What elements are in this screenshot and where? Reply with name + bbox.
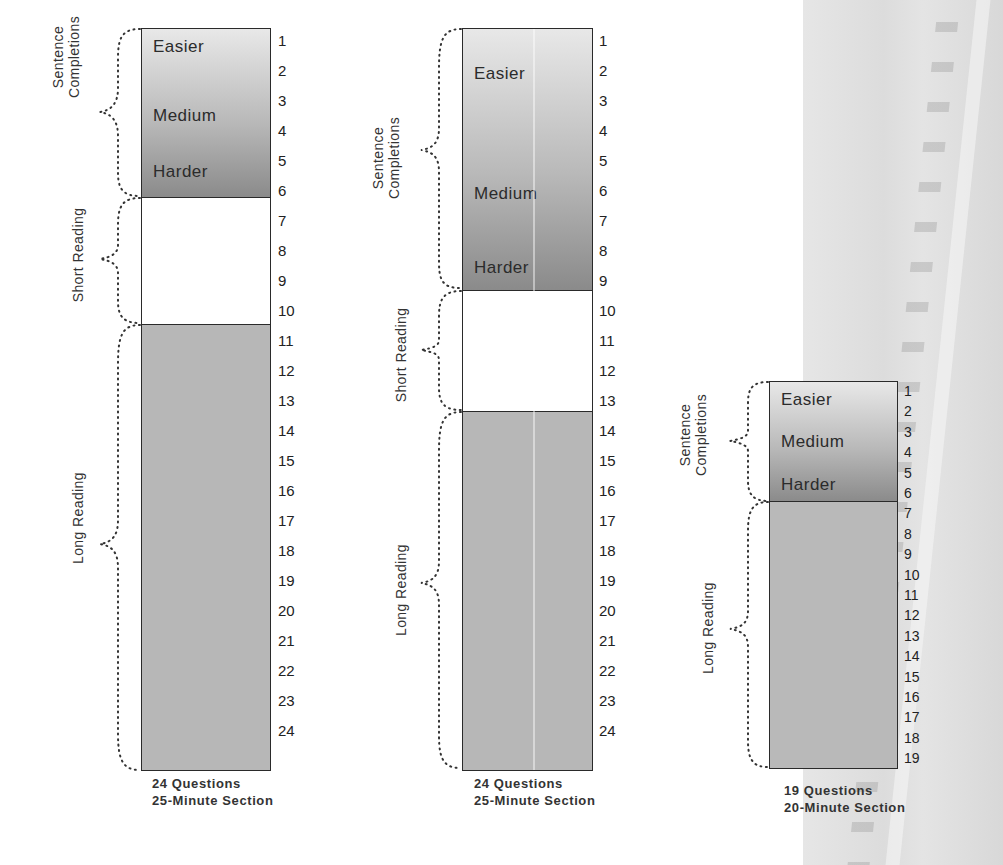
question-number: 2 <box>278 63 286 78</box>
question-number: 13 <box>278 393 295 408</box>
question-number: 12 <box>599 363 616 378</box>
question-number: 6 <box>278 183 286 198</box>
question-number: 16 <box>278 483 295 498</box>
question-number: 15 <box>599 453 616 468</box>
question-number: 24 <box>278 723 295 738</box>
brace-long-reading <box>90 324 142 772</box>
question-number: 1 <box>278 33 286 48</box>
question-number: 7 <box>904 506 912 520</box>
sentence-completions-block: Easier Medium Harder <box>142 29 270 198</box>
question-number: 17 <box>904 710 920 724</box>
question-number: 2 <box>599 63 607 78</box>
label-sentence-completions: Sentence Completions <box>370 93 402 223</box>
question-number: 17 <box>599 513 616 528</box>
question-number: 5 <box>904 466 912 480</box>
question-number: 7 <box>599 213 607 228</box>
question-number: 9 <box>904 547 912 561</box>
question-number: 16 <box>599 483 616 498</box>
question-number: 14 <box>904 649 920 663</box>
question-number: 11 <box>599 333 615 348</box>
sentence-completions-block: Easier Medium Harder <box>770 382 897 502</box>
section-caption: 24 Questions 25-Minute Section <box>152 775 273 809</box>
difficulty-harder: Harder <box>153 162 208 182</box>
brace-sentence-completions <box>90 28 142 198</box>
question-number: 8 <box>904 527 912 541</box>
question-number: 9 <box>278 273 286 288</box>
brace-long-reading <box>411 411 463 771</box>
question-number: 1 <box>904 384 912 398</box>
question-number: 4 <box>599 123 607 138</box>
question-number: 7 <box>278 213 286 228</box>
question-number: 20 <box>278 603 295 618</box>
question-number: 2 <box>904 404 912 418</box>
question-number: 6 <box>904 486 912 500</box>
label-long-reading: Long Reading <box>70 428 86 608</box>
question-number: 24 <box>599 723 616 738</box>
short-reading-block <box>463 290 592 412</box>
question-number: 12 <box>904 608 920 622</box>
question-number: 11 <box>278 333 294 348</box>
question-number: 5 <box>278 153 286 168</box>
brace-short-reading <box>90 197 142 325</box>
question-number: 3 <box>599 93 607 108</box>
question-number: 18 <box>599 543 616 558</box>
label-sentence-completions: Sentence Completions <box>677 375 709 495</box>
brace-sentence-completions <box>411 28 463 291</box>
difficulty-easier: Easier <box>781 390 832 410</box>
label-short-reading: Short Reading <box>393 290 409 420</box>
label-long-reading: Long Reading <box>700 568 716 688</box>
question-number: 18 <box>904 731 920 745</box>
short-reading-block <box>142 197 270 325</box>
question-number: 4 <box>278 123 286 138</box>
question-number: 17 <box>278 513 295 528</box>
question-number: 3 <box>904 425 912 439</box>
difficulty-medium: Medium <box>781 432 844 452</box>
question-number: 5 <box>599 153 607 168</box>
section-caption: 24 Questions 25-Minute Section <box>474 775 595 809</box>
question-number: 20 <box>599 603 616 618</box>
brace-short-reading <box>411 290 463 412</box>
question-number: 9 <box>599 273 607 288</box>
question-number: 14 <box>599 423 616 438</box>
question-number: 16 <box>904 690 920 704</box>
question-bar: Easier Medium Harder <box>769 381 898 769</box>
difficulty-easier: Easier <box>153 37 204 57</box>
question-bar: Easier Medium Harder <box>141 28 271 771</box>
question-number: 10 <box>599 303 616 318</box>
question-number: 18 <box>278 543 295 558</box>
brace-long-reading <box>718 501 770 770</box>
question-number: 3 <box>278 93 286 108</box>
label-sentence-completions: Sentence Completions <box>50 2 82 112</box>
section-caption: 19 Questions 20-Minute Section <box>784 782 905 816</box>
question-number: 21 <box>599 633 616 648</box>
label-long-reading: Long Reading <box>393 515 409 665</box>
question-number: 13 <box>599 393 616 408</box>
difficulty-harder: Harder <box>474 258 529 278</box>
question-number: 23 <box>599 693 616 708</box>
difficulty-medium: Medium <box>474 184 537 204</box>
question-number: 11 <box>904 588 919 602</box>
question-number: 21 <box>278 633 295 648</box>
question-number: 23 <box>278 693 295 708</box>
question-number: 13 <box>904 629 920 643</box>
question-number: 4 <box>904 445 912 459</box>
long-reading-block <box>770 501 897 768</box>
question-bar: Easier Medium Harder <box>462 28 593 771</box>
question-number: 10 <box>278 303 295 318</box>
question-number: 1 <box>599 33 607 48</box>
difficulty-easier: Easier <box>474 64 525 84</box>
long-reading-block <box>463 411 592 770</box>
question-number: 19 <box>904 751 920 765</box>
question-number: 8 <box>599 243 607 258</box>
question-number: 6 <box>599 183 607 198</box>
difficulty-harder: Harder <box>781 475 836 495</box>
question-number: 22 <box>278 663 295 678</box>
question-number: 19 <box>599 573 616 588</box>
sentence-completions-block: Easier Medium Harder <box>463 29 592 291</box>
question-number: 14 <box>278 423 295 438</box>
question-number: 10 <box>904 568 920 582</box>
question-number: 22 <box>599 663 616 678</box>
question-number: 15 <box>904 670 920 684</box>
brace-sentence-completions <box>718 381 770 503</box>
fold-crease-line <box>533 29 535 770</box>
